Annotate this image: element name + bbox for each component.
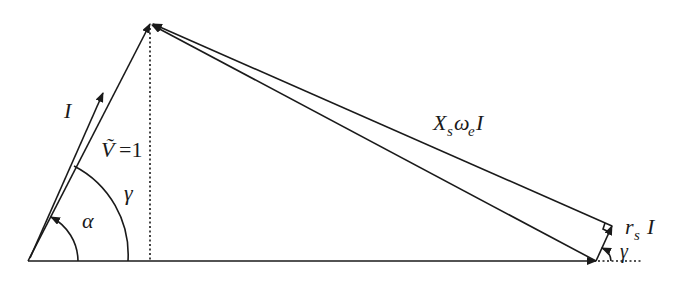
svg-text:r: r [625,214,634,239]
resistance-drop-label: r s I [625,214,656,243]
svg-text:X: X [432,110,448,135]
svg-text:e: e [468,123,475,139]
voltage-label: Ṽ =1 [101,137,142,162]
svg-text:s: s [447,123,453,139]
resultant-phasor [152,25,596,261]
angle-gamma-small-label: γ [620,240,629,263]
svg-text:s: s [634,227,640,243]
reactance-drop-phasor [153,24,612,226]
svg-text:I: I [646,214,656,239]
gamma-arc-small [602,248,611,261]
angle-alpha-label: α [82,208,94,233]
current-label: I [63,98,73,123]
reactance-drop-label: X s ω e I [432,110,485,139]
svg-text:I: I [475,110,485,135]
angle-gamma-label: γ [124,180,134,205]
phasor-diagram: I Ṽ =1 α γ X s ω e I r s I γ [0,0,673,284]
svg-text:=1: =1 [119,137,142,162]
svg-text:Ṽ: Ṽ [101,137,117,162]
alpha-arc [51,217,78,261]
